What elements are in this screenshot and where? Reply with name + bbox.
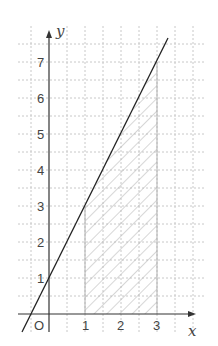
y-tick-5: 5 [37, 127, 44, 142]
y-axis [46, 30, 52, 332]
x-tick-1: 1 [82, 318, 89, 333]
y-tick-2: 2 [37, 235, 44, 250]
y-tick-6: 6 [37, 91, 44, 106]
x-tick-2: 2 [117, 318, 124, 333]
y-tick-3: 3 [37, 199, 44, 214]
x-axis-arrow-icon [188, 311, 196, 317]
coordinate-plane: y x O 1 2 3 1 2 3 4 5 6 7 [0, 0, 218, 346]
y-axis-arrow-icon [46, 30, 52, 38]
y-tick-4: 4 [37, 163, 44, 178]
y-tick-7: 7 [37, 55, 44, 70]
y-axis-label: y [55, 22, 65, 40]
x-tick-3: 3 [153, 318, 160, 333]
y-tick-1: 1 [37, 271, 44, 286]
origin-label: O [34, 318, 44, 333]
x-axis-label: x [188, 322, 197, 340]
